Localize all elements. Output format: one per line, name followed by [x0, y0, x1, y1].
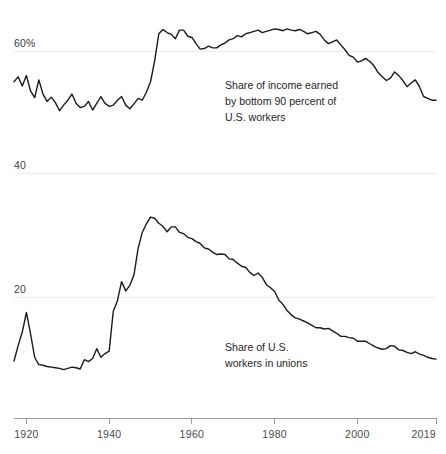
y-tick-label-20: 20: [14, 283, 26, 295]
x-tick-label-2019: 2019: [411, 428, 436, 440]
x-tick-label-1980: 1980: [262, 428, 287, 440]
x-axis-tick-labels: 192019401960198020002019: [14, 428, 436, 440]
income-annotation-line-2: by bottom 90 percent of: [225, 95, 336, 107]
union-annotation: Share of U.S. workers in unions: [224, 341, 307, 369]
y-tick-label-60: 60%: [14, 37, 36, 49]
union-annotation-line-2: workers in unions: [224, 357, 307, 369]
y-axis-labels: 60% 40 20: [14, 37, 36, 295]
income-annotation: Share of income earned by bottom 90 perc…: [225, 79, 338, 123]
x-tick-label-2000: 2000: [345, 428, 370, 440]
y-tick-label-40: 40: [14, 159, 26, 171]
x-axis: 192019401960198020002019: [14, 418, 436, 440]
union-annotation-line-1: Share of U.S.: [225, 341, 289, 353]
chart-figure: 60% 40 20 Share of income earned by bott…: [0, 0, 446, 454]
x-axis-ticks: [26, 418, 436, 424]
income-annotation-line-1: Share of income earned: [225, 79, 338, 91]
x-tick-label-1920: 1920: [14, 428, 39, 440]
x-tick-label-1960: 1960: [180, 428, 205, 440]
x-tick-label-1940: 1940: [97, 428, 122, 440]
income-annotation-line-3: U.S. workers: [225, 111, 286, 123]
